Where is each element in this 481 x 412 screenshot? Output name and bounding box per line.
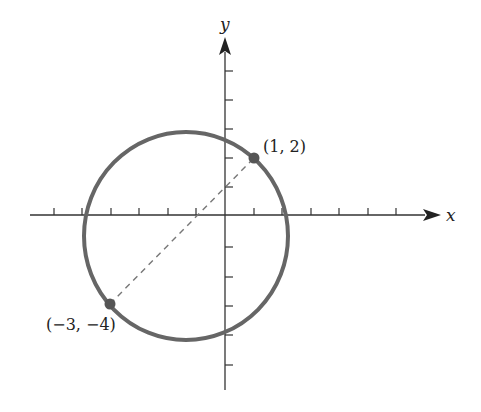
x-axis: x: [30, 205, 456, 225]
coordinate-diagram: x y (1, 2) (−3, −4): [0, 0, 481, 412]
point-1-2: [249, 153, 260, 164]
point-label-1-2: (1, 2): [263, 137, 306, 156]
x-axis-arrow-icon: [423, 209, 441, 221]
dashed-diameter: [110, 158, 254, 304]
y-axis-label: y: [219, 14, 230, 34]
point-neg3-neg4: [105, 299, 116, 310]
circle: [84, 132, 288, 340]
point-label-neg3-neg4: (−3, −4): [46, 315, 116, 334]
x-axis-label: x: [446, 205, 456, 225]
